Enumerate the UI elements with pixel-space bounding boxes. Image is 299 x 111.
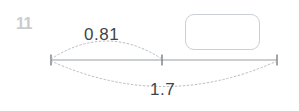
upper-measure-label: 0.81 <box>84 25 119 45</box>
worksheet-diagram-screenshot: 11 0.81 1.7 <box>0 0 299 111</box>
lower-measure-label: 1.7 <box>150 80 175 100</box>
answer-input[interactable] <box>185 14 260 50</box>
